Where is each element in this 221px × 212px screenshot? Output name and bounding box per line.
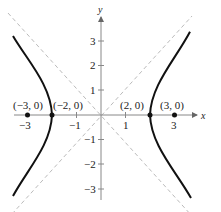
asymptote-negative bbox=[8, 13, 192, 212]
y-tick-label: 1 bbox=[90, 84, 96, 96]
x-tick-label: −1 bbox=[69, 119, 81, 131]
y-tick-label: 2 bbox=[90, 59, 96, 71]
y-tick-label: −2 bbox=[84, 158, 96, 170]
point-label: (3, 0) bbox=[160, 99, 184, 112]
vertex-point-right bbox=[148, 113, 153, 118]
point-label: (−3, 0) bbox=[13, 99, 43, 112]
x-tick-label: −3 bbox=[19, 119, 31, 131]
x-tick-label: 1 bbox=[123, 119, 129, 131]
focus-point-right bbox=[172, 113, 177, 118]
point-label: (−2, 0) bbox=[53, 99, 83, 112]
x-axis-label: x bbox=[200, 110, 206, 121]
asymptote-positive bbox=[12, 16, 192, 212]
hyperbola-left-branch bbox=[13, 36, 52, 196]
y-tick-label: 3 bbox=[90, 35, 96, 47]
x-tick-label: 3 bbox=[171, 119, 177, 131]
hyperbola-diagram: x y −3 −1 1 3 3 2 1 −1 −2 −3 (−3, 0) (−2… bbox=[0, 0, 221, 212]
point-label: (2, 0) bbox=[120, 99, 144, 112]
vertex-point-left bbox=[50, 113, 55, 118]
y-tick-label: −1 bbox=[84, 133, 96, 145]
y-tick-label: −3 bbox=[84, 183, 96, 195]
y-axis-label: y bbox=[97, 4, 103, 15]
focus-point-left bbox=[25, 113, 30, 118]
